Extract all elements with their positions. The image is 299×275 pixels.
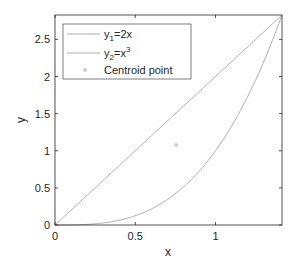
y-tick-label: 2 (44, 71, 50, 83)
y-tick-label: 0.5 (35, 182, 50, 194)
centroid-point (174, 143, 178, 147)
y-tick-label: 1.5 (35, 108, 50, 120)
x-tick-label: 0.5 (128, 230, 143, 242)
y-tick-label: 1 (44, 145, 50, 157)
legend: y1=2x y2=x3 Centroid point (63, 24, 191, 79)
x-tick-label: 0 (52, 230, 58, 242)
y-tick-label: 2.5 (35, 33, 50, 45)
legend-marker-centroid (83, 68, 87, 72)
y-axis-label: y (14, 117, 28, 123)
x-axis-label: x (165, 245, 171, 259)
legend-label-centroid: Centroid point (104, 64, 173, 76)
chart: 00.51 00.511.522.5 x y y1=2x y2=x3 Centr… (0, 0, 299, 275)
y-tick-label: 0 (44, 219, 50, 231)
x-tick-label: 1 (212, 230, 218, 242)
